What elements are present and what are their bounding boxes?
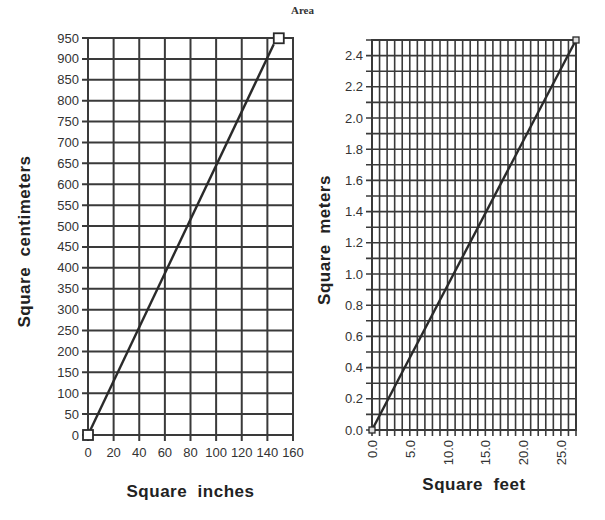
chart-canvas: 0501001502002503003504004505005506006507… <box>0 0 605 520</box>
y-axis-label: Square centimeters <box>15 155 34 327</box>
data-marker-square <box>274 33 284 43</box>
y-tick-label: 900 <box>57 51 79 66</box>
y-tick-label: 0.2 <box>345 391 363 406</box>
y-tick-label: 1.0 <box>345 267 363 282</box>
y-tick-label: 50 <box>65 407 79 422</box>
x-tick-label: 80 <box>183 445 197 460</box>
data-marker-square <box>369 427 375 433</box>
y-tick-label: 800 <box>57 93 79 108</box>
x-tick-label: 100 <box>205 445 227 460</box>
y-tick-label: 500 <box>57 219 79 234</box>
x-tick-label: 60 <box>158 445 172 460</box>
y-tick-label: 200 <box>57 344 79 359</box>
y-tick-label: 350 <box>57 281 79 296</box>
x-tick-label: 160 <box>282 445 304 460</box>
x-tick-label: 120 <box>231 445 253 460</box>
y-tick-label: 0.8 <box>345 298 363 313</box>
x-tick-label: 25.0 <box>554 440 569 465</box>
y-tick-label: 150 <box>57 365 79 380</box>
y-tick-label: 0.0 <box>345 423 363 438</box>
x-tick-label: 20 <box>106 445 120 460</box>
x-tick-label: 10.0 <box>441 440 456 465</box>
y-tick-label: 2.0 <box>345 111 363 126</box>
y-tick-label: 700 <box>57 135 79 150</box>
y-tick-label: 0.6 <box>345 329 363 344</box>
y-tick-label: 1.4 <box>345 204 363 219</box>
y-tick-label: 650 <box>57 156 79 171</box>
y-tick-label: 400 <box>57 260 79 275</box>
y-tick-label: 1.8 <box>345 142 363 157</box>
y-tick-label: 0.4 <box>345 360 363 375</box>
x-tick-label: 20.0 <box>516 440 531 465</box>
y-tick-label: 750 <box>57 114 79 129</box>
y-tick-label: 1.6 <box>345 173 363 188</box>
x-tick-label: 0 <box>84 445 91 460</box>
y-tick-label: 550 <box>57 198 79 213</box>
chart-2: 0.00.20.40.60.81.01.21.41.61.82.02.22.40… <box>315 37 579 494</box>
y-tick-label: 250 <box>57 323 79 338</box>
y-tick-label: 2.2 <box>345 79 363 94</box>
y-tick-label: 450 <box>57 239 79 254</box>
x-axis-label: Square inches <box>127 482 255 501</box>
y-tick-label: 600 <box>57 177 79 192</box>
x-tick-label: 0.0 <box>365 440 380 458</box>
x-axis-label: Square feet <box>422 475 525 494</box>
chart-1: 0501001502002503003504004505005506006507… <box>15 31 304 502</box>
y-tick-label: 100 <box>57 386 79 401</box>
x-tick-label: 5.0 <box>403 440 418 458</box>
x-tick-label: 40 <box>132 445 146 460</box>
y-tick-label: 950 <box>57 31 79 46</box>
y-tick-label: 850 <box>57 72 79 87</box>
data-marker-square <box>83 430 93 440</box>
y-tick-label: 1.2 <box>345 235 363 250</box>
y-tick-label: 300 <box>57 302 79 317</box>
y-tick-label: 0 <box>72 428 79 443</box>
x-tick-label: 15.0 <box>478 440 493 465</box>
data-marker-square <box>573 37 579 43</box>
x-tick-label: 140 <box>257 445 279 460</box>
y-tick-label: 2.4 <box>345 48 363 63</box>
y-axis-label: Square meters <box>315 175 334 305</box>
